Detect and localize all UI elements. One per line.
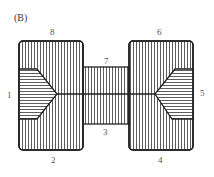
region-7-3-block <box>83 67 129 124</box>
region-label-6: 6 <box>157 28 162 37</box>
region-label-1: 1 <box>7 91 12 100</box>
region-label-8: 8 <box>50 28 55 37</box>
region-label-2: 2 <box>51 156 56 165</box>
region-label-3: 3 <box>103 128 108 137</box>
diagram-canvas <box>0 0 214 177</box>
region-label-7: 7 <box>104 57 109 66</box>
region-label-4: 4 <box>158 156 163 165</box>
region-label-5: 5 <box>200 89 205 98</box>
